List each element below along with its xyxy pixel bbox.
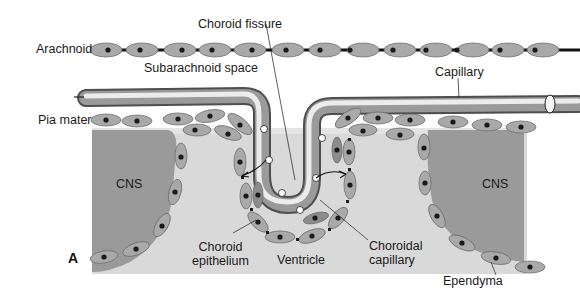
label-choroid-epithelium: Choroid epithelium bbox=[192, 241, 249, 269]
choroid-plexus-diagram: Choroid fissure Arachnoid Subarachnoid s… bbox=[0, 0, 580, 302]
label-choroidal-capillary-line2: capillary bbox=[369, 254, 423, 268]
label-choroidal-capillary-line1: Choroidal bbox=[369, 240, 423, 254]
label-ventricle: Ventricle bbox=[277, 254, 325, 268]
arachnoid-cells bbox=[90, 43, 580, 57]
label-cns-left: CNS bbox=[116, 178, 142, 192]
label-choroid-epithelium-line1: Choroid bbox=[192, 241, 249, 255]
label-choroidal-capillary: Choroidal capillary bbox=[369, 240, 423, 268]
label-capillary: Capillary bbox=[435, 66, 484, 80]
label-arachnoid: Arachnoid bbox=[36, 43, 92, 57]
label-cns-right: CNS bbox=[482, 178, 508, 192]
label-subarachnoid-space: Subarachnoid space bbox=[144, 62, 258, 76]
panel-letter: A bbox=[68, 250, 78, 266]
label-choroid-fissure: Choroid fissure bbox=[198, 18, 282, 32]
label-choroid-epithelium-line2: epithelium bbox=[192, 255, 249, 269]
label-pia-mater: Pia mater bbox=[38, 114, 92, 128]
label-ependyma: Ependyma bbox=[443, 275, 503, 289]
